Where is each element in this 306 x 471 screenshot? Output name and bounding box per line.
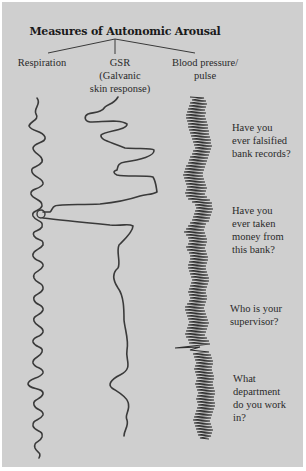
- question-supervisor: Who is your supervisor?: [230, 302, 282, 328]
- question-taken-money: Have you ever taken money from this bank…: [232, 204, 284, 256]
- question-department: What department do you work in?: [233, 372, 286, 424]
- question-falsified-records: Have you ever falsified bank records?: [232, 121, 291, 160]
